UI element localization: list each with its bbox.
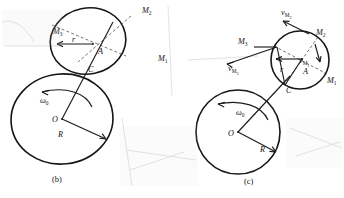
panel-c-label-c: C xyxy=(286,86,292,95)
panel-b-label-r-small: r xyxy=(72,35,76,44)
panel-c-velocity-vector-m1 xyxy=(315,44,321,62)
panel-c-label-m3: M3 xyxy=(237,37,248,47)
panel-b-omega-arc xyxy=(42,90,92,107)
panel-c-label-m1: M1 xyxy=(326,76,337,86)
panel-c-radius-r-capital-arrow xyxy=(238,132,276,152)
panel-c-label-omega: ω0 xyxy=(236,108,245,118)
panel-b-label-m1: M1 xyxy=(157,54,168,64)
panel-b-center-point-a xyxy=(92,43,94,45)
panel-b: M1 M2 M3 r A C ω0 O R (b) xyxy=(7,1,168,184)
panel-b-label-r-capital: R xyxy=(57,130,63,139)
figure-canvas: M1 M2 M3 r A C ω0 O R (b) xyxy=(0,0,344,198)
panel-c-label-m2: M2 xyxy=(315,28,326,38)
panel-b-label-a: A xyxy=(97,47,104,56)
panel-c-caption: (c) xyxy=(244,177,254,186)
panel-b-caption: (b) xyxy=(52,175,62,184)
panel-b-center-point-o xyxy=(61,118,63,120)
figure-root: M1 M2 M3 r A C ω0 O R (b) xyxy=(0,0,344,198)
panel-b-label-c: C xyxy=(88,65,94,74)
panel-b-label-o: O xyxy=(52,115,58,124)
panel-c-label-a: A xyxy=(302,67,309,76)
panel-b-label-m2: M2 xyxy=(141,6,152,16)
panel-c-center-point-o xyxy=(237,131,239,133)
panel-b-label-omega: ω0 xyxy=(40,96,49,106)
panel-b-label-m3: M3 xyxy=(52,27,63,37)
panel-c-label-v-m2: vM2 xyxy=(281,8,291,20)
panel-c: M1 M2 M3 vM2 vM3 vM1 r A C ω0 O xyxy=(196,8,337,186)
panel-c-label-r-capital: R xyxy=(259,145,265,154)
panel-c-label-r-small: r xyxy=(280,65,284,74)
panel-c-label-v-m3: vM3 xyxy=(228,64,238,76)
panel-b-radius-r-capital-arrow xyxy=(62,119,106,139)
panel-c-label-o: O xyxy=(228,129,234,138)
